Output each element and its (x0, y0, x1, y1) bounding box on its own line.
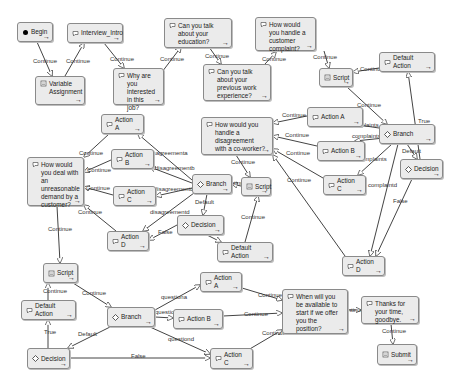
connector-edge[interactable]: Continue (262, 52, 287, 64)
connector-edge[interactable]: True (408, 72, 431, 159)
flow-node-default-action-1[interactable]: Default Action→ (379, 52, 435, 72)
flow-node-decision-3[interactable]: Decision→ (27, 348, 70, 369)
output-port-arrow-icon[interactable]: → (75, 96, 82, 103)
output-port-arrow-icon[interactable]: → (343, 78, 350, 85)
flow-node-action-d-2[interactable]: Action D→ (107, 231, 149, 251)
flow-node-unreasonable-demand[interactable]: How would you deal with an unreasonable … (27, 157, 84, 206)
flow-node-decision-1[interactable]: Decision→ (400, 159, 443, 179)
flow-node-action-c-3[interactable]: Action C→ (210, 348, 253, 369)
flow-node-default-action-2[interactable]: Default Action→ (217, 242, 273, 262)
output-port-arrow-icon[interactable]: → (222, 39, 229, 46)
output-port-arrow-icon[interactable]: → (113, 34, 120, 41)
output-port-arrow-icon[interactable]: → (353, 118, 360, 125)
output-port-arrow-icon[interactable]: → (43, 33, 50, 40)
connector-edge[interactable]: Continue (79, 134, 109, 157)
connector-edge[interactable]: Continue (48, 206, 73, 263)
connector-edge[interactable]: Continue (160, 47, 185, 72)
flow-node-branch-1[interactable]: Branch→ (379, 124, 435, 144)
connector-edge[interactable]: Continue (104, 43, 135, 68)
connector-edge[interactable]: Continue (78, 205, 116, 231)
connector-edge[interactable]: Continue (273, 149, 323, 178)
connector-edge[interactable]: disagreementb (150, 165, 195, 183)
flow-node-action-c-1[interactable]: Action C→ (323, 175, 366, 195)
connector-edge[interactable]: Continue (84, 185, 113, 195)
flow-node-decision-2[interactable]: Decision→ (177, 215, 224, 235)
output-port-arrow-icon[interactable]: → (60, 360, 67, 367)
connector-edge[interactable]: questiond (150, 327, 210, 354)
flow-node-action-b-1[interactable]: Action B→ (317, 141, 365, 161)
connector-edge[interactable]: Continue (205, 47, 230, 64)
output-port-arrow-icon[interactable]: → (409, 315, 416, 322)
flow-node-why-interested[interactable]: Why are you interested in this job?→ (113, 68, 164, 105)
output-port-arrow-icon[interactable]: → (338, 325, 345, 332)
flow-node-action-a-1[interactable]: Action A→ (307, 107, 363, 127)
output-port-arrow-icon[interactable]: → (213, 320, 220, 327)
connector-edge[interactable]: Default (68, 327, 110, 348)
output-port-arrow-icon[interactable]: → (139, 242, 146, 249)
flow-node-branch-2[interactable]: Branch→ (192, 174, 232, 194)
connector-edge[interactable]: Continue (242, 288, 283, 300)
output-port-arrow-icon[interactable]: → (407, 356, 414, 363)
flow-node-available-start[interactable]: When will you be available to start if w… (282, 289, 348, 334)
flow-node-begin[interactable]: Begin→ (17, 22, 53, 42)
flow-node-script-1[interactable]: Script→ (319, 68, 353, 87)
flow-node-action-d-1[interactable]: Action D→ (342, 256, 385, 276)
flow-node-talk-education[interactable]: Can you talk about your education?→ (164, 18, 232, 48)
flow-node-interview-intro[interactable]: Interview_Intro→ (67, 23, 123, 43)
output-port-arrow-icon[interactable]: → (74, 197, 81, 204)
connector-edge[interactable]: Continue (73, 283, 111, 307)
output-port-arrow-icon[interactable]: → (425, 63, 432, 70)
flow-node-action-c-2[interactable]: Action C→ (113, 186, 156, 206)
connector-edge[interactable] (207, 235, 221, 242)
output-port-arrow-icon[interactable]: → (306, 42, 313, 49)
output-port-arrow-icon[interactable]: → (145, 318, 152, 325)
connector-edge[interactable]: Continue (313, 51, 338, 68)
output-port-arrow-icon[interactable]: → (433, 170, 440, 177)
output-port-arrow-icon[interactable]: → (261, 187, 268, 194)
flow-node-script-3[interactable]: Script→ (43, 263, 78, 283)
connector-edge[interactable]: False (149, 225, 177, 240)
connector-edge[interactable]: False (376, 179, 412, 256)
flow-node-talk-work[interactable]: Can you talk about your previous work ex… (203, 64, 271, 101)
connector-edge[interactable]: Continue (65, 43, 91, 76)
connector-edge[interactable]: Continue (273, 112, 307, 123)
output-port-arrow-icon[interactable]: → (66, 311, 73, 318)
output-port-arrow-icon[interactable]: → (243, 360, 250, 367)
output-port-arrow-icon[interactable]: → (375, 267, 382, 274)
connector-edge[interactable]: Continue (382, 324, 407, 344)
connector-edge[interactable]: questiona (155, 285, 200, 310)
connector-edge[interactable]: Default (195, 194, 214, 215)
output-port-arrow-icon[interactable]: → (146, 197, 153, 204)
flow-node-action-a-3[interactable]: Action A→ (200, 272, 242, 292)
connector-edge[interactable]: disagreementc (154, 186, 193, 196)
connector-edge[interactable]: Continue (248, 330, 287, 350)
output-port-arrow-icon[interactable]: → (134, 125, 141, 132)
output-port-arrow-icon[interactable]: → (425, 135, 432, 142)
flow-node-submit[interactable]: Submit→ (377, 344, 417, 365)
output-port-arrow-icon[interactable]: → (355, 152, 362, 159)
flow-node-customer-complaint[interactable]: How would you handle a customer complain… (255, 17, 316, 51)
output-port-arrow-icon[interactable]: → (232, 283, 239, 290)
connector-edge[interactable]: Continue (223, 311, 282, 317)
output-port-arrow-icon[interactable]: → (261, 92, 268, 99)
flow-node-action-b-3[interactable]: Action B→ (173, 309, 223, 329)
output-port-arrow-icon[interactable]: → (68, 274, 75, 281)
connector-edge[interactable]: Continue (231, 155, 256, 177)
flow-node-thanks-goodbye[interactable]: Thanks for your time, goodbye.→ (361, 296, 419, 324)
flow-node-action-a-2[interactable]: Action A→ (101, 114, 144, 134)
output-port-arrow-icon[interactable]: → (263, 146, 270, 153)
flow-node-default-action-3[interactable]: Default Action→ (21, 300, 76, 320)
output-port-arrow-icon[interactable]: → (263, 253, 270, 260)
output-port-arrow-icon[interactable]: → (144, 160, 151, 167)
flow-node-branch-3[interactable]: Branch→ (107, 307, 155, 327)
flow-node-script-2[interactable]: Script→ (241, 177, 271, 196)
output-port-arrow-icon[interactable]: → (214, 226, 221, 233)
connector-edge[interactable]: Continue (33, 42, 58, 76)
flow-node-coworker-disagreement[interactable]: How would you handle a disagreement with… (201, 117, 273, 155)
output-port-arrow-icon[interactable]: → (356, 186, 363, 193)
flow-node-action-b-2[interactable]: Action B→ (111, 149, 154, 169)
flow-canvas[interactable]: ContinueContinueContinueContinueContinue… (0, 0, 455, 384)
connector-edge[interactable]: Continue (241, 196, 266, 242)
connector-edge[interactable]: Continue (84, 160, 112, 173)
output-port-arrow-icon[interactable]: → (154, 96, 161, 103)
